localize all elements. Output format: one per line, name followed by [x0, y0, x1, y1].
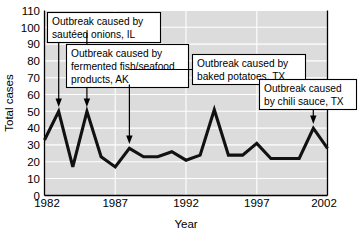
botulism-outbreak-line-chart: 110 100 90 80 70 60 50 40 30 20 10 0 198…: [0, 0, 360, 246]
chart-figure: 110 100 90 80 70 60 50 40 30 20 10 0 198…: [0, 0, 360, 246]
y-tick-80: 80: [27, 55, 40, 67]
callout-line-1: Outbreak caused by: [52, 16, 144, 27]
callout-line-1: Outbreak caused: [264, 83, 342, 94]
x-axis-tick-labels: 1982 1987 1992 1997 2002: [34, 197, 337, 209]
x-tick-1982: 1982: [34, 197, 60, 209]
y-axis-tick-labels: 110 100 90 80 70 60 50 40 30 20 10 0: [21, 5, 40, 202]
x-tick-1987: 1987: [102, 197, 128, 209]
y-tick-50: 50: [27, 106, 40, 118]
y-tick-40: 40: [27, 122, 40, 134]
y-axis-title: Total cases: [3, 74, 15, 132]
y-tick-110: 110: [22, 5, 40, 17]
x-axis-title: Year: [174, 218, 197, 230]
x-tick-1997: 1997: [244, 197, 270, 209]
y-tick-60: 60: [27, 89, 40, 101]
callout-line-1: Outbreak caused by: [197, 58, 289, 69]
callout-line-2: sautéed onions, IL: [52, 29, 136, 40]
x-tick-2002: 2002: [311, 197, 337, 209]
x-tick-1992: 1992: [173, 197, 199, 209]
y-tick-70: 70: [27, 72, 40, 84]
y-tick-30: 30: [27, 139, 40, 151]
callout-line-3: products, AK: [71, 74, 129, 85]
y-tick-20: 20: [27, 156, 40, 168]
callout-line-1: Outbreak caused by: [71, 48, 163, 59]
callout-line-2: by chili sauce, TX: [264, 96, 344, 107]
y-tick-100: 100: [21, 22, 40, 34]
y-tick-90: 90: [27, 38, 40, 50]
y-tick-10: 10: [27, 173, 40, 185]
